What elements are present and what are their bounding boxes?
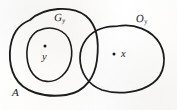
label-right-set-subscript: y <box>144 18 148 25</box>
label-outer-set-A: A <box>12 87 19 98</box>
label-inner-set-base: G <box>54 11 63 23</box>
label-point-y: y <box>42 52 47 63</box>
inner-set-boundary-G <box>27 28 72 81</box>
label-inner-set-subscript: y <box>62 17 66 24</box>
label-point-x: x <box>121 49 126 60</box>
point-marker-x <box>113 53 116 56</box>
diagram-canvas <box>0 0 177 110</box>
point-marker-y <box>44 45 47 48</box>
set-diagram-figure: Gy Oy y x A <box>0 0 177 110</box>
label-right-set-O: Oy <box>135 12 147 26</box>
label-inner-set-G: Gy <box>54 12 66 26</box>
